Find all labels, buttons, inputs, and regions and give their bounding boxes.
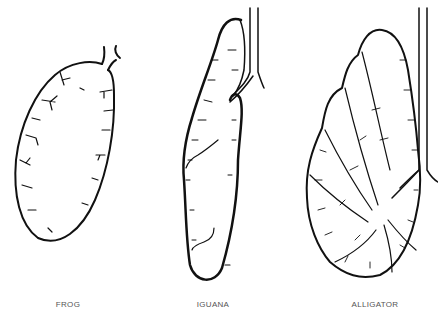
alligator-lung-drawing: [307, 8, 438, 277]
frog-lung-drawing: [15, 46, 120, 241]
iguana-label: IGUANA: [197, 300, 229, 309]
iguana-lung-drawing: [183, 8, 264, 280]
lung-comparison-illustration: [0, 0, 438, 317]
frog-label: FROG: [56, 300, 80, 309]
alligator-label: ALLIGATOR: [352, 300, 399, 309]
